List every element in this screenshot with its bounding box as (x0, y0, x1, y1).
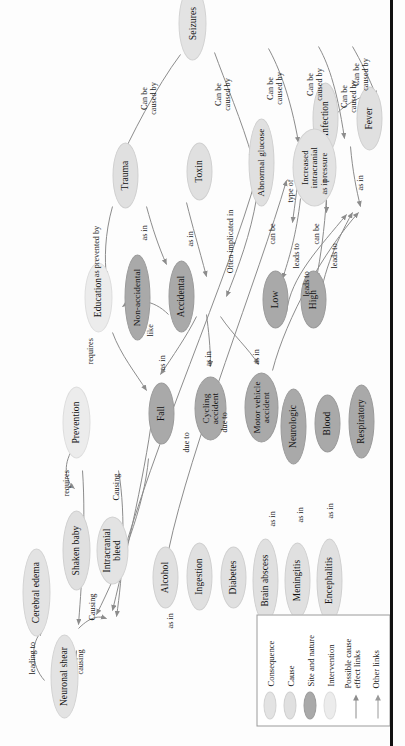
edge-label: as in (268, 511, 277, 526)
edge-label: as in (204, 351, 213, 366)
node-low[interactable]: Low (262, 270, 288, 328)
legend-label: Cause (285, 665, 295, 686)
legend-swatch-cause (283, 691, 296, 719)
node-neuronal-shear[interactable]: Neuronal shear (50, 634, 78, 718)
node-blood[interactable]: Blood (314, 394, 340, 452)
node-alcohol[interactable]: Alcohol (152, 546, 178, 608)
node-ingestion[interactable]: Ingestion (186, 542, 212, 610)
edge-label: requires (62, 470, 71, 496)
node-label: Seizures (187, 6, 197, 39)
edge-label: can be (312, 223, 321, 244)
legend-arrow-icon (369, 693, 380, 719)
edge-label: as in (252, 349, 261, 364)
node-label: Brain abscess (260, 554, 270, 606)
edge-label: Causing (112, 473, 121, 500)
edge-label: leads to (292, 243, 301, 268)
node-label: Ingestion (194, 558, 204, 594)
node-meningitis[interactable]: Meningitis (284, 542, 310, 618)
edge-label: Causing (88, 593, 97, 620)
node-brain-abscess[interactable]: Brain abscess (252, 538, 278, 622)
node-label: Cerebral edema (31, 561, 41, 622)
concept-map-stage: Neuronal shear Cerebral edema Shaken bab… (0, 0, 405, 746)
node-fall[interactable]: Fall (148, 382, 174, 444)
node-label: Abnormal glucose (256, 128, 265, 196)
legend-label: Other links (370, 650, 380, 688)
edge-label: requires (86, 338, 95, 364)
node-trauma[interactable]: Trauma (112, 142, 138, 208)
edge-label: due to (182, 432, 191, 452)
node-label: Meningitis (292, 559, 302, 600)
legend-item-site-and-nature: Site and nature (303, 634, 316, 719)
node-label: Fever (364, 107, 374, 129)
page-border-rule (390, 0, 393, 746)
edge-label: leading to (28, 641, 37, 674)
node-label: Non-accidental (132, 268, 141, 326)
node-neurologic[interactable]: Neurologic (280, 388, 306, 464)
node-label: Diabetes (228, 560, 238, 594)
node-abnormal-glucose[interactable]: Abnormal glucose (248, 118, 274, 206)
node-label: Neurologic (288, 405, 298, 448)
edge-label: as in (326, 503, 335, 518)
node-label: Low (270, 290, 280, 308)
node-label: Neuronal shear (59, 646, 69, 705)
node-label: Alcohol (160, 561, 170, 592)
edge-label: as in (320, 179, 329, 194)
legend-label: Site and nature (305, 634, 315, 686)
edge-label: Can be caused by (352, 52, 369, 96)
edge-label: Can be caused by (214, 72, 231, 116)
edge-label: causing (76, 649, 85, 674)
node-increased-icp[interactable]: Increased intracranial pressure (292, 128, 336, 206)
node-encephalitis[interactable]: Encephalitis (316, 538, 342, 622)
node-diabetes[interactable]: Diabetes (220, 546, 246, 608)
node-label: Intracranial bleed (102, 519, 121, 581)
edge-label: type of (286, 179, 295, 202)
legend-item-other-links: Other links (369, 650, 380, 719)
node-label: Blood (322, 411, 332, 435)
legend-item-consequence: Consequence (263, 640, 276, 719)
edge-label: as in (186, 231, 195, 246)
node-label: Fall (156, 405, 166, 420)
edge-label: Can be caused by (140, 76, 157, 120)
edge-label: Can be caused by (306, 62, 323, 106)
edge-label: due to (220, 412, 229, 432)
node-intracranial-bleed[interactable]: Intracranial bleed (96, 516, 128, 584)
node-label: Trauma (120, 160, 130, 190)
edge-label: like (146, 324, 155, 336)
edge-label: as in (166, 613, 175, 628)
node-motor-vehicle-accident[interactable]: Motor vehicle accident (244, 372, 278, 442)
legend-arrow-icon (347, 693, 358, 719)
node-toxin[interactable]: Toxin (186, 142, 212, 200)
legend-item-intervention: Intervention (323, 644, 336, 719)
edge-label: as in (356, 175, 365, 190)
node-prevention[interactable]: Prevention (62, 386, 90, 458)
node-accidental[interactable]: Accidental (168, 260, 194, 332)
legend-swatch-intervention (323, 691, 336, 719)
node-label: Respiratory (356, 399, 366, 443)
edge-label: can be (268, 223, 277, 244)
edge-label: as prevented by (92, 224, 101, 278)
figure-page: Neuronal shear Cerebral edema Shaken bab… (0, 0, 405, 746)
node-seizures[interactable]: Seizures (178, 0, 206, 60)
edge-label: leads to (330, 243, 339, 268)
node-label: Cycling accident (201, 379, 220, 437)
edge-label: as in (296, 507, 305, 522)
legend-label: Consequence (265, 640, 275, 686)
node-cerebral-edema[interactable]: Cerebral edema (22, 548, 50, 636)
node-label: Shaken baby (71, 525, 81, 575)
node-label: Toxin (194, 160, 204, 183)
edge-label: Can be caused by (266, 66, 283, 110)
legend-swatch-consequence (263, 691, 276, 719)
edge-label: Often implicated in (226, 204, 235, 278)
node-label: Education (93, 277, 103, 316)
legend-item-cause: Cause (283, 665, 296, 719)
node-respiratory[interactable]: Respiratory (348, 384, 374, 458)
node-label: Encephalitis (324, 556, 334, 603)
node-shaken-baby[interactable]: Shaken baby (62, 510, 90, 590)
node-label: Prevention (71, 401, 81, 443)
node-label: Motor vehicle accident (252, 375, 271, 439)
edge-label: as in (158, 355, 167, 370)
edge-label: as in (140, 225, 149, 240)
edge-label: leads to (302, 271, 311, 296)
legend-swatch-site (303, 691, 316, 719)
legend-box: Consequence Cause Site and nature Interv… (256, 614, 390, 726)
